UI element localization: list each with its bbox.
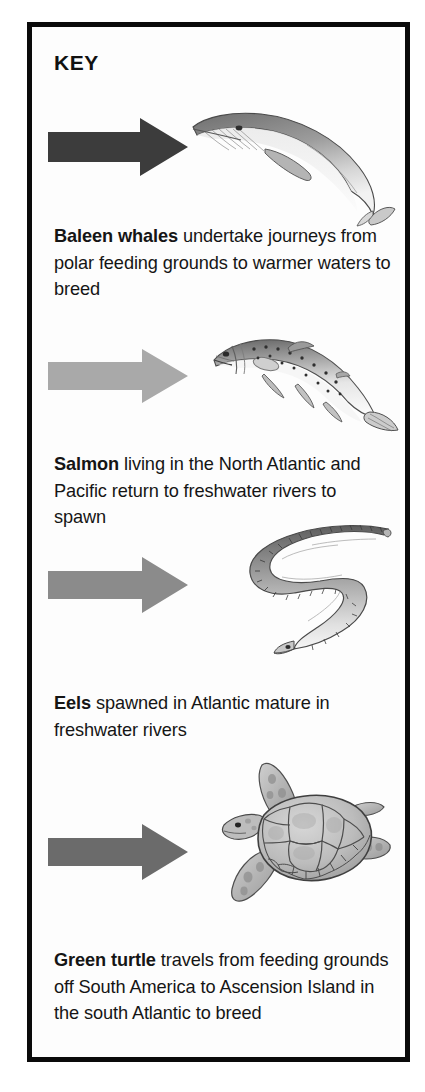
arrow-right-icon-salmon [48, 349, 188, 403]
animal-description-eel: spawned in Atlantic mature in freshwater… [54, 693, 330, 740]
arrow-right-icon-baleen-whale [48, 118, 188, 176]
key-title: KEY [54, 51, 99, 75]
salmon-illustration [210, 332, 400, 447]
animal-name-baleen-whale: Baleen whales [54, 226, 178, 246]
arrow-right-icon-green-turtle [48, 824, 188, 880]
arrow-right-icon-eel [48, 557, 188, 613]
key-legend-panel: KEY [27, 22, 410, 1062]
animal-name-eel: Eels [54, 693, 91, 713]
eel-illustration [212, 519, 392, 659]
animal-name-green-turtle: Green turtle [54, 950, 156, 970]
legend-entry-text-eel: Eels spawned in Atlantic mature in fresh… [54, 690, 392, 743]
legend-entry-text-green-turtle: Green turtle travels from feeding ground… [54, 947, 392, 1027]
baleen-whale-illustration [187, 105, 397, 227]
animal-name-salmon: Salmon [54, 454, 119, 474]
green-turtle-illustration [204, 755, 394, 920]
legend-entry-text-baleen-whale: Baleen whales undertake journeys from po… [54, 223, 392, 303]
